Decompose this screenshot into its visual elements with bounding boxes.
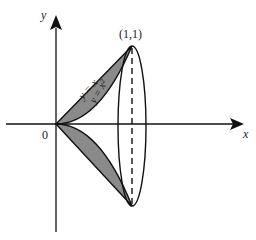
y-axis-label: y: [40, 8, 47, 22]
x-axis-label: x: [242, 127, 249, 141]
origin-label: 0: [42, 128, 48, 142]
shaded-region-lower: [56, 124, 132, 206]
point-label: (1,1): [119, 27, 142, 41]
revolution-diagram: y x 0 (1,1) y = x y = x²: [0, 0, 256, 240]
y-axis-arrow-icon: [50, 15, 62, 30]
